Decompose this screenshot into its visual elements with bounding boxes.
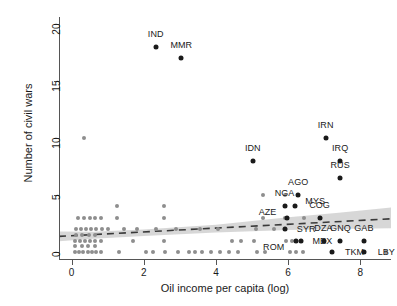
data-point <box>294 250 298 254</box>
data-point <box>151 250 155 254</box>
data-point-labeled <box>323 136 328 141</box>
y-tick-label: 20 <box>51 23 62 53</box>
data-point-labeled <box>154 44 159 49</box>
data-point-label: NGA <box>275 188 295 198</box>
data-point <box>239 239 243 243</box>
data-point <box>88 239 92 243</box>
data-point-labeled <box>282 227 287 232</box>
data-point <box>74 233 78 237</box>
data-point-labeled <box>338 175 343 180</box>
data-point <box>74 227 78 231</box>
data-point <box>99 250 103 254</box>
data-point <box>162 216 166 220</box>
x-tick-label: 0 <box>60 267 84 278</box>
data-point-label: IRN <box>318 120 334 130</box>
data-point <box>93 233 97 237</box>
data-point <box>272 227 276 231</box>
data-point <box>301 250 305 254</box>
data-point-labeled <box>317 215 322 220</box>
data-point <box>216 227 220 231</box>
data-point <box>80 233 84 237</box>
data-point-label: IRQ <box>332 143 348 153</box>
x-tick-label: 4 <box>204 267 228 278</box>
data-point <box>93 239 97 243</box>
data-point <box>117 250 121 254</box>
data-point <box>163 250 167 254</box>
data-point-labeled <box>296 193 301 198</box>
x-tick-mark <box>360 260 361 265</box>
data-point-label: RUS <box>330 160 349 170</box>
data-point <box>106 227 110 231</box>
data-point <box>86 244 90 248</box>
data-point <box>93 216 97 220</box>
data-point-label: AZE <box>259 207 277 217</box>
data-point-label: SYR <box>297 224 316 234</box>
data-point <box>236 250 240 254</box>
data-point <box>79 227 83 231</box>
data-point-labeled <box>282 204 287 209</box>
data-point <box>73 239 77 243</box>
data-point <box>99 216 103 220</box>
data-point <box>255 250 259 254</box>
data-point-label: GNQ <box>330 223 351 233</box>
x-axis-title: Oil income per capita (log) <box>59 282 391 294</box>
y-tick-label: 10 <box>51 138 62 168</box>
data-point <box>144 250 148 254</box>
data-point <box>252 239 256 243</box>
data-point-labeled <box>361 238 366 243</box>
data-point-label: AGO <box>288 177 308 187</box>
data-point <box>93 244 97 248</box>
data-point <box>162 204 166 208</box>
data-point <box>88 216 92 220</box>
data-point <box>80 244 84 248</box>
data-point-label: ROM <box>263 242 284 252</box>
data-point <box>131 239 135 243</box>
data-point <box>162 239 166 243</box>
data-point-labeled <box>330 250 335 255</box>
data-point-labeled <box>338 238 343 243</box>
data-point <box>73 244 77 248</box>
x-tick-mark <box>144 260 145 265</box>
data-point <box>100 227 104 231</box>
data-point <box>115 216 119 220</box>
data-point <box>84 227 88 231</box>
data-point <box>174 227 178 231</box>
data-point-label: TKM <box>345 247 364 257</box>
y-tick-label: 15 <box>51 80 62 110</box>
x-tick-mark <box>72 260 73 265</box>
data-point <box>82 136 86 140</box>
data-point-label: LBY <box>378 247 395 257</box>
data-point <box>218 250 222 254</box>
data-point <box>99 239 103 243</box>
data-point <box>154 227 158 231</box>
data-point-label: MMR <box>170 40 192 50</box>
data-point-labeled <box>298 238 303 243</box>
data-point <box>122 227 126 231</box>
data-point-label: COG <box>309 200 330 210</box>
data-point <box>227 250 231 254</box>
data-point <box>76 216 80 220</box>
data-point-label: IND <box>148 29 164 39</box>
data-point <box>135 227 139 231</box>
data-point <box>89 227 93 231</box>
data-point <box>230 239 234 243</box>
data-point <box>94 227 98 231</box>
data-point-label: IDN <box>245 143 261 153</box>
data-point <box>187 250 191 254</box>
x-tick-mark <box>216 260 217 265</box>
data-point <box>288 250 292 254</box>
data-point <box>176 250 180 254</box>
scatter-plot-figure: INDMMRIRNIDNIRQRUSAGONGAMYSAZECOGSYRDZAG… <box>0 0 397 306</box>
data-point-label: GAB <box>354 223 373 233</box>
y-tick-label: 5 <box>51 195 62 225</box>
data-point-labeled <box>250 158 255 163</box>
data-point <box>193 250 197 254</box>
data-point <box>115 204 119 208</box>
data-point <box>78 239 82 243</box>
x-tick-label: 6 <box>276 267 300 278</box>
x-axis-line <box>59 259 391 260</box>
data-point <box>198 227 202 231</box>
data-point <box>200 250 204 254</box>
data-point-labeled <box>285 215 290 220</box>
data-point-label: MEX <box>313 236 333 246</box>
